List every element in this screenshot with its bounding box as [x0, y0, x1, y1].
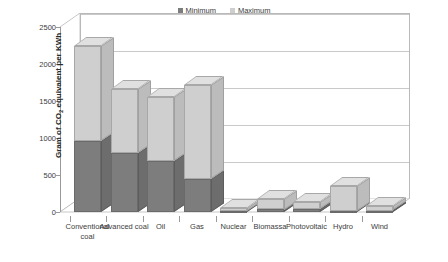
segment-front-face — [220, 208, 247, 211]
bar-segment-maximum[interactable] — [330, 186, 357, 211]
bar-segment-minimum[interactable] — [366, 211, 393, 212]
y-tick-mark — [56, 27, 60, 28]
segment-front-face — [293, 209, 320, 212]
y-axis-title: Gram of CO2 equivalent per KWh — [54, 33, 64, 158]
y-tick-label: 500 — [43, 171, 56, 180]
segment-side-face — [211, 77, 224, 180]
y-axis-title-suffix: equivalent per KWh — [54, 33, 63, 110]
bar-segment-minimum[interactable] — [74, 141, 101, 212]
bar-segment-minimum[interactable] — [330, 211, 357, 212]
x-tick-mark — [70, 216, 71, 222]
segment-front-face — [257, 199, 284, 210]
x-tick-mark — [216, 216, 217, 222]
segment-front-face — [184, 85, 211, 179]
plot-area: 05001000150020002500 Gram of CO2 equival… — [60, 27, 390, 212]
bar-segment-minimum[interactable] — [111, 153, 138, 212]
x-tick-mark — [362, 216, 363, 222]
bar-segment-maximum[interactable] — [293, 202, 320, 209]
bar-segment-maximum[interactable] — [147, 97, 174, 161]
y-tick-mark — [56, 175, 60, 176]
segment-front-face — [147, 161, 174, 212]
x-tick-mark — [106, 216, 107, 222]
segment-front-face — [74, 46, 101, 141]
bar-segment-minimum[interactable] — [293, 209, 320, 212]
bar-segment-minimum[interactable] — [220, 211, 247, 212]
bar-segment-maximum[interactable] — [220, 208, 247, 211]
segment-front-face — [147, 97, 174, 161]
segment-front-face — [184, 179, 211, 212]
y-axis-title-subscript: 2 — [58, 110, 64, 113]
bar-chart: Minimum Maximum 05001000150020002500 Gra… — [0, 0, 448, 262]
y-tick-mark — [56, 212, 60, 213]
x-axis-labels: Conventional coalAdvanced coalOilGasNucl… — [60, 222, 448, 260]
gridline — [81, 14, 409, 15]
x-tick-mark — [289, 216, 290, 222]
segment-front-face — [257, 209, 284, 212]
bar-segment-maximum[interactable] — [111, 89, 138, 153]
bar-segment-maximum[interactable] — [184, 85, 211, 179]
x-tick-mark — [143, 216, 144, 222]
segment-front-face — [111, 153, 138, 212]
x-tick-label: Wind — [353, 222, 407, 232]
segment-front-face — [293, 202, 320, 209]
x-tick-mark — [325, 216, 326, 222]
segment-front-face — [111, 89, 138, 153]
segment-front-face — [220, 211, 247, 213]
segment-front-face — [330, 211, 357, 213]
segment-front-face — [366, 206, 393, 210]
bar-segment-minimum[interactable] — [147, 161, 174, 212]
segment-front-face — [74, 141, 101, 212]
segment-front-face — [330, 186, 357, 211]
x-tick-mark — [252, 216, 253, 222]
gridline — [81, 51, 409, 52]
y-axis-title-prefix: Gram of CO — [54, 113, 63, 158]
bar-segment-maximum[interactable] — [366, 206, 393, 210]
bar-segment-maximum[interactable] — [257, 199, 284, 210]
segment-front-face — [366, 211, 393, 213]
bar-segment-minimum[interactable] — [257, 209, 284, 212]
bar-segment-maximum[interactable] — [74, 46, 101, 141]
x-tick-mark — [179, 216, 180, 222]
y-tick-label: 2500 — [39, 23, 56, 32]
bar-segment-minimum[interactable] — [184, 179, 211, 212]
